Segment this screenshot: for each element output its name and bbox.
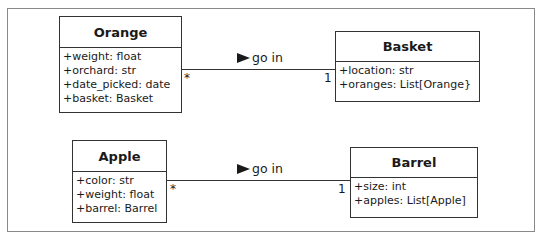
class-apple-name: Apple [73, 141, 166, 172]
attribute: +oranges: List[Orange} [339, 78, 476, 92]
direction-arrow-icon [237, 53, 250, 63]
class-basket-name: Basket [336, 32, 479, 62]
attribute: +weight: float [76, 188, 163, 202]
multiplicity-to: 1 [338, 182, 346, 196]
attribute: +barrel: Barrel [76, 202, 163, 216]
multiplicity-from: * [184, 71, 190, 85]
attribute: +orchard: str [63, 64, 178, 78]
attribute: +basket: Basket [63, 92, 178, 106]
attribute: +date_picked: date [63, 78, 178, 92]
association-line-apple-barrel [167, 180, 350, 181]
association-line-orange-basket [182, 69, 335, 70]
class-barrel: Barrel +size: int +apples: List[Apple] [350, 147, 478, 218]
class-orange-attributes: +weight: float +orchard: str +date_picke… [60, 48, 181, 108]
class-apple: Apple +color: str +weight: float +barrel… [72, 140, 167, 223]
class-barrel-name: Barrel [351, 148, 477, 178]
attribute: +size: int [354, 180, 474, 194]
class-basket: Basket +location: str +oranges: List[Ora… [335, 31, 480, 102]
attribute: +location: str [339, 64, 476, 78]
class-barrel-attributes: +size: int +apples: List[Apple] [351, 178, 477, 210]
attribute: +color: str [76, 174, 163, 188]
association-label: go in [237, 161, 283, 176]
multiplicity-to: 1 [324, 71, 332, 85]
class-orange: Orange +weight: float +orchard: str +dat… [59, 16, 182, 113]
class-basket-attributes: +location: str +oranges: List[Orange} [336, 62, 479, 94]
class-apple-attributes: +color: str +weight: float +barrel: Barr… [73, 172, 166, 218]
attribute: +weight: float [63, 50, 178, 64]
association-label: go in [237, 50, 283, 65]
direction-arrow-icon [237, 164, 250, 174]
attribute: +apples: List[Apple] [354, 194, 474, 208]
multiplicity-from: * [170, 182, 176, 196]
class-orange-name: Orange [60, 17, 181, 48]
